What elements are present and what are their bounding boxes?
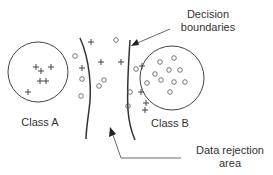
circle-marker-icon <box>102 78 107 83</box>
circle-marker-icon <box>134 67 139 72</box>
plus-marker-icon <box>38 68 44 74</box>
rejection-area-arrowhead-icon <box>109 127 116 137</box>
decision-boundaries-label: Decision boundaries <box>170 8 246 34</box>
plus-marker-icon <box>43 78 49 84</box>
rejection-area-line1: Data rejection <box>190 144 270 157</box>
rejection-area-pointer-line <box>113 135 181 158</box>
circle-marker-icon <box>97 84 102 89</box>
class-a-label: Class A <box>18 116 62 129</box>
circle-marker-icon <box>73 54 78 59</box>
rejection-area-label: Data rejection area <box>190 144 270 170</box>
circle-marker-icon <box>114 38 119 43</box>
plus-marker-icon <box>33 64 39 70</box>
class-a-region <box>8 42 68 102</box>
plus-marker-icon <box>98 59 104 65</box>
circle-marker-icon <box>167 68 172 73</box>
circle-marker-icon <box>172 80 177 85</box>
circle-marker-icon <box>79 94 84 99</box>
circle-marker-icon <box>145 81 150 86</box>
circle-marker-icon <box>168 90 173 95</box>
circle-marker-icon <box>153 72 158 77</box>
circle-marker-icon <box>158 60 163 65</box>
circle-marker-icon <box>80 77 85 82</box>
diagram-canvas: Class A Class B Decision boundaries Data… <box>0 0 273 175</box>
class-b-label: Class B <box>148 117 192 130</box>
circle-marker-icon <box>159 78 164 83</box>
decision-boundaries-arrowhead-icon <box>131 39 139 46</box>
circle-marker-icon <box>172 56 177 61</box>
class-b-region <box>140 46 204 110</box>
plus-marker-icon <box>25 89 31 95</box>
plus-marker-icon <box>143 100 149 106</box>
rejection-area-line2: area <box>190 157 270 170</box>
plus-marker-icon <box>138 89 144 95</box>
plus-marker-icon <box>88 39 94 45</box>
left-decision-boundary <box>80 38 90 139</box>
circle-marker-icon <box>178 68 183 73</box>
plus-marker-icon <box>79 65 85 71</box>
plus-marker-icon <box>48 64 54 70</box>
plus-marker-icon <box>142 107 148 113</box>
plus-marker-icon <box>118 59 124 65</box>
plus-marker-icon <box>37 78 43 84</box>
decision-boundaries-pointer-line <box>135 29 170 44</box>
decision-boundaries-line2: boundaries <box>170 21 246 34</box>
decision-boundaries-line1: Decision <box>170 8 246 21</box>
plus-marker-icon <box>139 63 145 69</box>
circle-marker-icon <box>183 80 188 85</box>
